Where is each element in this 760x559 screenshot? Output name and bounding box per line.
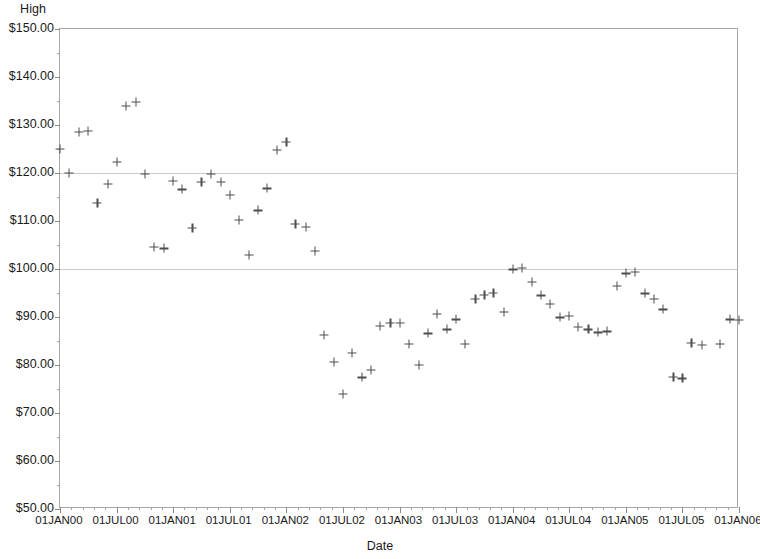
data-point-marker [669, 372, 678, 381]
data-point-marker [471, 294, 480, 303]
data-point-marker [358, 373, 367, 382]
data-point-marker [234, 216, 243, 225]
data-point-marker [338, 389, 347, 398]
data-point-marker [291, 219, 300, 228]
data-point-marker [131, 97, 140, 106]
data-point-marker [169, 177, 178, 186]
data-point-marker [149, 242, 158, 251]
y-axis-tick-label: $50.00 [16, 501, 54, 515]
x-axis-minor-tick [535, 507, 536, 510]
y-axis-tick [55, 29, 60, 30]
data-point-marker [395, 319, 404, 328]
data-point-marker [319, 330, 328, 339]
data-point-marker [499, 307, 508, 316]
x-axis-minor-tick [603, 507, 604, 510]
x-axis-minor-tick [648, 507, 649, 510]
data-point-marker [715, 339, 724, 348]
data-point-marker [536, 291, 545, 300]
y-axis-tick [55, 413, 60, 414]
data-point-marker [574, 322, 583, 331]
x-axis-minor-tick [592, 507, 593, 510]
y-axis-tick-label: $140.00 [9, 69, 54, 83]
y-axis-tick-label: $110.00 [10, 213, 54, 227]
x-axis-minor-tick [433, 507, 434, 510]
x-axis-minor-tick [218, 507, 219, 510]
data-point-marker [282, 138, 291, 147]
data-point-marker [556, 313, 565, 322]
data-point-marker [112, 157, 121, 166]
x-axis-tick [343, 507, 344, 513]
x-axis-tick-label: 01JAN01 [149, 514, 196, 526]
data-point-marker [565, 312, 574, 321]
data-point-marker [367, 365, 376, 374]
data-point-marker [489, 289, 498, 298]
y-axis-tick [55, 269, 60, 270]
x-axis-minor-tick [162, 507, 163, 510]
data-point-marker [480, 290, 489, 299]
data-point-marker [84, 127, 93, 136]
x-axis-tick [513, 507, 514, 513]
x-axis-minor-tick [207, 507, 208, 510]
x-axis-minor-tick [388, 507, 389, 510]
x-axis-tick [626, 507, 627, 513]
x-axis-minor-tick [354, 507, 355, 510]
data-point-marker [93, 198, 102, 207]
y-axis-tick-label: $120.00 [9, 165, 54, 179]
data-point-marker [725, 315, 734, 324]
x-axis-minor-tick [637, 507, 638, 510]
x-axis-minor-tick [547, 507, 548, 510]
y-axis-minor-tick [57, 437, 60, 438]
x-axis-tick-label: 01JAN02 [262, 514, 309, 526]
y-axis-tick-label: $90.00 [16, 309, 54, 323]
y-axis-minor-tick [57, 197, 60, 198]
x-axis-minor-tick [151, 507, 152, 510]
x-axis-minor-tick [332, 507, 333, 510]
data-point-marker [517, 263, 526, 272]
y-axis-minor-tick [57, 293, 60, 294]
data-point-marker [641, 289, 650, 298]
y-axis-minor-tick [57, 101, 60, 102]
x-axis-tick-label: 01JAN03 [375, 514, 422, 526]
x-axis-tick-label: 01JUL02 [319, 514, 365, 526]
x-axis-minor-tick [490, 507, 491, 510]
data-point-marker [301, 222, 310, 231]
y-axis-tick [55, 461, 60, 462]
x-axis-minor-tick [705, 507, 706, 510]
data-point-marker [423, 329, 432, 338]
data-point-marker [432, 310, 441, 319]
x-axis-minor-tick [275, 507, 276, 510]
x-axis-minor-tick [252, 507, 253, 510]
x-axis-tick-label: 01JUL01 [206, 514, 252, 526]
y-axis-tick-label: $70.00 [16, 405, 54, 419]
data-point-marker [452, 315, 461, 324]
data-point-marker [273, 145, 282, 154]
data-point-marker [75, 128, 84, 137]
data-point-marker [225, 191, 234, 200]
data-point-marker [121, 101, 130, 110]
x-axis-tick [400, 507, 401, 513]
y-axis-tick [55, 125, 60, 126]
data-point-marker [546, 299, 555, 308]
y-axis-tick [55, 173, 60, 174]
data-point-marker [584, 325, 593, 334]
x-axis-minor-tick [422, 507, 423, 510]
gridline [60, 269, 737, 270]
x-axis-minor-tick [671, 507, 672, 510]
data-point-marker [254, 206, 263, 215]
data-point-marker [178, 185, 187, 194]
y-axis-tick [55, 221, 60, 222]
y-axis-minor-tick [57, 149, 60, 150]
x-axis-tick [60, 507, 61, 513]
y-axis-tick [55, 317, 60, 318]
data-point-marker [612, 281, 621, 290]
x-axis-tick [569, 507, 570, 513]
x-axis-tick [682, 507, 683, 513]
data-point-marker [216, 177, 225, 186]
y-axis-minor-tick [57, 53, 60, 54]
x-axis-tick [173, 507, 174, 513]
y-axis-tick [55, 365, 60, 366]
x-axis-tick [739, 507, 740, 513]
x-axis-minor-tick [83, 507, 84, 510]
x-axis-tick-label: 01JUL05 [658, 514, 704, 526]
data-point-marker [386, 318, 395, 327]
